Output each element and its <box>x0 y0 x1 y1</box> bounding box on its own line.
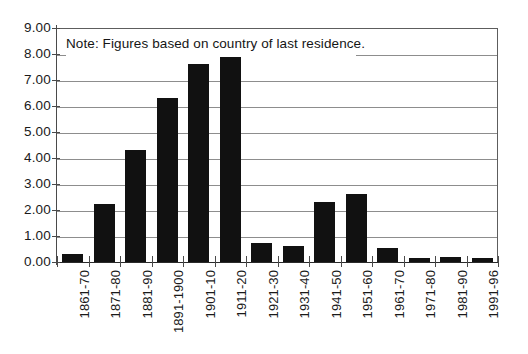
y-tick-label: 3.00 <box>3 177 51 191</box>
x-tick-label: 1881-90 <box>141 270 154 318</box>
y-tick-label: 7.00 <box>3 73 51 87</box>
y-tick-label: 4.00 <box>3 151 51 165</box>
y-tick-label: 9.00 <box>3 21 51 35</box>
x-tick-mark <box>467 256 468 267</box>
x-tick-label: 1931-40 <box>298 270 311 318</box>
y-tick-label: 5.00 <box>3 125 51 139</box>
y-tick-label: 0.00 <box>3 255 51 269</box>
y-tick-label: 2.00 <box>3 203 51 217</box>
chart-note: Note: Figures based on country of last r… <box>66 30 356 56</box>
y-axis-labels: 9.008.007.006.005.004.003.002.001.000.00 <box>0 0 51 354</box>
x-tick-label: 1901-10 <box>204 270 217 318</box>
y-tick-mark <box>52 106 60 107</box>
y-tick-mark <box>52 132 60 133</box>
x-tick-mark <box>152 256 153 267</box>
y-tick-mark <box>52 28 60 29</box>
y-tick-mark <box>52 262 60 263</box>
x-tick-mark <box>341 256 342 267</box>
x-tick-label: 1861-70 <box>78 270 91 318</box>
x-tick-label: 1941-50 <box>330 270 343 318</box>
x-tick-mark <box>183 256 184 267</box>
x-tick-label: 1911-20 <box>235 270 248 317</box>
bar <box>188 64 209 262</box>
y-tick-label: 8.00 <box>3 47 51 61</box>
x-axis-ticks <box>57 256 498 268</box>
bar <box>157 98 178 262</box>
y-tick-label: 6.00 <box>3 99 51 113</box>
x-tick-label: 1991-96 <box>487 270 500 318</box>
x-tick-mark <box>498 256 499 267</box>
x-tick-label: 1961-70 <box>393 270 406 318</box>
y-tick-mark <box>52 80 60 81</box>
y-tick-mark <box>52 236 60 237</box>
y-tick-mark <box>52 158 60 159</box>
x-tick-label: 1871-80 <box>109 270 122 318</box>
y-tick-mark <box>52 184 60 185</box>
x-tick-label: 1891-1900 <box>172 270 185 333</box>
bar <box>94 204 115 263</box>
x-tick-mark <box>278 256 279 267</box>
x-tick-label: 1971-80 <box>424 270 437 318</box>
bar <box>314 202 335 262</box>
y-tick-mark <box>52 54 60 55</box>
x-tick-mark <box>246 256 247 267</box>
x-tick-mark <box>120 256 121 267</box>
x-tick-mark <box>435 256 436 267</box>
x-tick-mark <box>89 256 90 267</box>
bar <box>125 150 146 262</box>
x-tick-mark <box>215 256 216 267</box>
x-tick-label: 1951-60 <box>361 270 374 318</box>
x-tick-label: 1921-30 <box>267 270 280 318</box>
x-tick-mark <box>309 256 310 267</box>
x-tick-mark <box>372 256 373 267</box>
bar <box>346 194 367 262</box>
x-axis-labels: 1861-701871-801881-901891-19001901-10191… <box>57 270 498 354</box>
bar <box>220 57 241 262</box>
bars-layer <box>57 28 498 262</box>
x-tick-label: 1981-90 <box>456 270 469 318</box>
chart-note-text: Note: Figures based on country of last r… <box>66 36 365 51</box>
x-tick-mark <box>404 256 405 267</box>
y-tick-mark <box>52 210 60 211</box>
y-tick-label: 1.00 <box>3 229 51 243</box>
bar-chart-figure: 9.008.007.006.005.004.003.002.001.000.00… <box>0 0 528 354</box>
